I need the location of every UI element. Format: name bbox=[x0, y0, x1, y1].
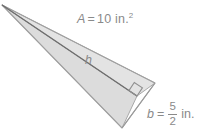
base-fraction: 5 2 bbox=[168, 101, 177, 127]
base-variable: b bbox=[147, 108, 154, 121]
area-value: 10 bbox=[97, 12, 111, 26]
height-label: h bbox=[85, 54, 92, 67]
area-label: A=10 in.2 bbox=[77, 12, 134, 26]
base-label: b = 5 2 in. bbox=[147, 101, 194, 127]
geometry-figure: A=10 in.2 h b = 5 2 in. bbox=[0, 0, 202, 139]
base-unit: in. bbox=[178, 108, 194, 121]
base-numerator: 5 bbox=[170, 101, 176, 114]
base-denominator: 2 bbox=[170, 115, 176, 128]
area-variable: A bbox=[77, 12, 86, 26]
area-exponent: 2 bbox=[129, 11, 134, 20]
area-equals: = bbox=[86, 12, 98, 26]
area-unit: in. bbox=[115, 12, 129, 26]
base-equals: = bbox=[154, 108, 167, 121]
